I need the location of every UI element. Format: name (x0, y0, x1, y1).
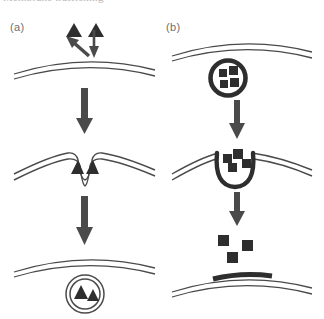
cargo-square (228, 163, 237, 172)
plasma-membrane-outer-leaflet (172, 153, 218, 174)
cargo-triangle (71, 160, 84, 174)
cargo-triangle (74, 285, 88, 299)
cargo-square (220, 80, 228, 88)
cargo-square (218, 235, 229, 246)
endocytosis-exocytosis-diagram (0, 0, 324, 319)
cargo-triangle (66, 23, 82, 37)
secretory-vesicle (211, 61, 246, 96)
plasma-membrane-inner-leaflet (254, 159, 312, 176)
plasma-membrane-outer-leaflet (252, 153, 312, 170)
panel-a-stage-3 (14, 260, 155, 313)
panel-a-step-arrow-2 (76, 196, 93, 245)
cargo-triangle (87, 289, 99, 301)
cargo-square (223, 154, 232, 163)
cargo-triangle (86, 160, 99, 174)
plasma-membrane (172, 44, 312, 61)
cargo-square (229, 66, 238, 75)
panel-b-group (172, 44, 312, 297)
cargo-triangle (88, 23, 104, 37)
panel-b-stage-1 (172, 44, 312, 96)
cargo-square (219, 69, 227, 77)
panel-a-step-arrow-1 (76, 88, 93, 134)
panel-b-stage-3 (172, 235, 312, 297)
panel-a-group (14, 23, 155, 313)
plasma-membrane (14, 62, 155, 79)
cargo-square (227, 252, 238, 263)
cargo-square (233, 149, 243, 159)
plasma-membrane (172, 275, 312, 297)
cargo-square (242, 159, 251, 168)
incorporated-vesicle-membrane-patch (213, 275, 272, 279)
panel-a-stage-1 (14, 23, 155, 79)
plasma-membrane-outer-leaflet (14, 153, 155, 180)
panel-b-step-arrow-1 (229, 100, 245, 139)
panel-a-stage-2 (14, 153, 155, 186)
arrow-up-left-icon (66, 36, 89, 56)
panel-b-step-arrow-2 (229, 192, 245, 226)
plasma-membrane-inner-leaflet (14, 159, 155, 186)
panel-b-stage-2 (172, 149, 312, 187)
cargo-square (242, 240, 253, 251)
cargo-square (230, 78, 239, 87)
